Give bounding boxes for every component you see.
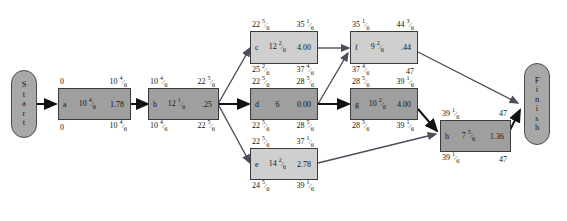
node-h-late-start: 39 1⁄6 (442, 153, 460, 164)
node-f-duration: 9 2⁄6 (371, 42, 385, 53)
node-b-late-finish: 22 5⁄6 (198, 121, 216, 132)
node-c-label: c (255, 43, 259, 52)
node-h-label: h (445, 132, 449, 141)
activity-node-f[interactable]: 35 1⁄6 44 3⁄6 f 9 2⁄6 .44 37 4⁄6 47 (350, 31, 418, 64)
activity-node-g[interactable]: 28 5⁄6 39 1⁄6 g 10 2⁄6 4.00 28 5⁄6 39 1⁄… (350, 88, 418, 120)
node-d-late-finish: 28 5⁄6 (297, 121, 315, 132)
start-letter-4: t (23, 118, 25, 128)
node-d-late-start: 22 5⁄6 (252, 121, 270, 132)
node-d-duration: 6 (275, 100, 279, 109)
node-e-label: e (255, 160, 259, 169)
node-g-early-finish: 39 1⁄6 (397, 77, 415, 88)
node-g-duration: 10 2⁄6 (369, 99, 387, 110)
node-f-box: f 9 2⁄6 .44 (350, 31, 418, 64)
activity-node-d[interactable]: 22 5⁄6 28 5⁄6 d 6 0.00 22 5⁄6 28 5⁄6 (250, 88, 318, 120)
edge-e-h (318, 134, 436, 163)
activity-node-b[interactable]: 10 4⁄6 22 5⁄6 b 12 1⁄6 .25 10 4⁄6 22 5⁄6 (148, 88, 219, 120)
node-d-variance: 0.00 (297, 100, 311, 109)
edge-d-f (318, 53, 348, 104)
edge-g-h (418, 109, 437, 131)
activity-node-c[interactable]: 22 5⁄6 35 1⁄6 c 12 2⁄6 4.00 25 2⁄6 37 4⁄… (250, 31, 318, 64)
node-a-early-start: 0 (60, 77, 64, 86)
edge-b-e (218, 104, 250, 163)
node-f-early-start: 35 1⁄6 (352, 20, 370, 31)
node-c-variance: 4.00 (297, 43, 311, 52)
node-f-variance: .44 (401, 43, 411, 52)
finish-node[interactable]: F i n i s h (524, 63, 550, 145)
node-f-late-start: 37 4⁄6 (352, 65, 370, 76)
activity-node-e[interactable]: 22 5⁄6 37 1⁄6 e 14 2⁄6 2.78 24 5⁄6 39 1⁄… (250, 148, 318, 180)
edge-f-finish (418, 52, 518, 103)
node-h-duration: 7 5⁄6 (462, 131, 476, 142)
node-a-box: a 10 4⁄6 1.78 (58, 88, 131, 120)
pert-network-diagram: S t a r t F i n i s h 0 10 4⁄6 a 10 4⁄6 … (0, 0, 567, 221)
node-a-variance: 1.78 (110, 100, 124, 109)
node-b-early-finish: 22 5⁄6 (198, 77, 216, 88)
node-h-variance: 1.36 (490, 132, 504, 141)
node-h-early-start: 39 1⁄6 (442, 109, 460, 120)
node-c-late-finish: 37 4⁄6 (297, 65, 315, 76)
node-a-label: a (63, 100, 67, 109)
node-c-early-finish: 35 1⁄6 (297, 20, 315, 31)
node-a-late-start: 0 (60, 123, 64, 132)
node-e-variance: 2.78 (297, 160, 311, 169)
node-d-box: d 6 0.00 (250, 88, 318, 120)
activity-node-a[interactable]: 0 10 4⁄6 a 10 4⁄6 1.78 0 10 4⁄6 (58, 88, 131, 120)
node-a-early-finish: 10 4⁄6 (110, 77, 128, 88)
node-g-box: g 10 2⁄6 4.00 (350, 88, 418, 120)
finish-letter-5: h (535, 123, 539, 133)
node-c-early-start: 22 5⁄6 (252, 20, 270, 31)
node-e-late-finish: 39 1⁄6 (297, 181, 315, 192)
node-b-early-start: 10 4⁄6 (150, 77, 168, 88)
node-b-variance: .25 (202, 100, 212, 109)
node-f-early-finish: 44 3⁄6 (397, 20, 415, 31)
node-d-early-start: 22 5⁄6 (252, 77, 270, 88)
node-f-label: f (355, 43, 358, 52)
node-g-variance: 4.00 (397, 100, 411, 109)
node-e-early-finish: 37 1⁄6 (297, 137, 315, 148)
node-b-duration: 12 1⁄6 (168, 99, 186, 110)
node-a-duration: 10 4⁄6 (79, 99, 97, 110)
node-b-box: b 12 1⁄6 .25 (148, 88, 219, 120)
node-e-box: e 14 2⁄6 2.78 (250, 148, 318, 180)
node-b-late-start: 10 4⁄6 (150, 121, 168, 132)
node-d-early-finish: 28 5⁄6 (297, 77, 315, 88)
node-c-box: c 12 2⁄6 4.00 (250, 31, 318, 64)
node-c-late-start: 25 2⁄6 (252, 65, 270, 76)
node-c-duration: 12 2⁄6 (269, 42, 287, 53)
activity-node-h[interactable]: 39 1⁄6 47 h 7 5⁄6 1.36 39 1⁄6 47 (440, 120, 511, 152)
node-g-label: g (355, 100, 359, 109)
node-h-late-finish: 47 (499, 155, 507, 164)
node-e-late-start: 24 5⁄6 (252, 181, 270, 192)
edge-b-c (218, 48, 250, 104)
node-h-early-finish: 47 (499, 109, 507, 118)
node-g-late-start: 28 5⁄6 (352, 121, 370, 132)
node-e-early-start: 22 5⁄6 (252, 137, 270, 148)
node-g-early-start: 28 5⁄6 (352, 77, 370, 88)
node-g-late-finish: 39 1⁄6 (397, 121, 415, 132)
node-h-box: h 7 5⁄6 1.36 (440, 120, 511, 152)
node-b-label: b (153, 100, 157, 109)
node-e-duration: 14 2⁄6 (269, 159, 287, 170)
start-node[interactable]: S t a r t (11, 70, 37, 138)
node-a-late-finish: 10 4⁄6 (110, 121, 128, 132)
node-d-label: d (255, 100, 259, 109)
